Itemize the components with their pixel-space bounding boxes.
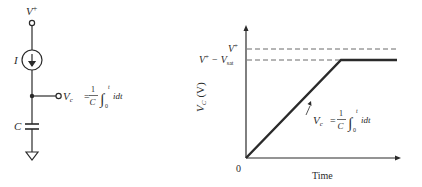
- annotation-equation: Vc = 1 C ∫ t 0 idt: [313, 108, 371, 133]
- supply-terminal: [29, 20, 34, 25]
- vsat-label: V+−Vsat: [199, 53, 234, 66]
- svg-text:Vc: Vc: [313, 114, 324, 128]
- ground-icon: [26, 152, 38, 160]
- y-axis-label: VC(V): [194, 82, 208, 112]
- svg-text:=: =: [330, 115, 336, 126]
- svg-text:idt: idt: [113, 91, 123, 101]
- current-arrow-icon: [29, 62, 35, 67]
- chart: V+ V+−Vsat VC(V) 0 Time Vc = 1 C ∫ t 0 i…: [194, 25, 401, 181]
- svg-text:0: 0: [353, 127, 356, 133]
- svg-text:t: t: [356, 108, 358, 114]
- output-equation: Vc = 1 C ∫ t 0 idt: [63, 84, 123, 109]
- svg-text:Vc: Vc: [63, 90, 74, 104]
- output-terminal: [56, 93, 61, 98]
- origin-label: 0: [236, 163, 241, 174]
- x-axis-arrow-icon: [395, 156, 401, 161]
- svg-text:0: 0: [105, 103, 108, 109]
- vplus-label: V+: [228, 42, 238, 54]
- current-label: I: [13, 54, 19, 66]
- annotation-leader: [306, 106, 310, 115]
- supply-label: V+: [26, 4, 38, 17]
- capacitor-label: C: [14, 120, 22, 132]
- circuit-diagram: [22, 20, 61, 160]
- svg-text:t: t: [108, 84, 110, 90]
- svg-text:1: 1: [339, 109, 343, 118]
- figure: V+ I C Vc = 1 C ∫ t 0 idt V+ V+−Vsat VC(…: [0, 0, 422, 187]
- svg-text:C: C: [338, 121, 345, 131]
- svg-text:C: C: [90, 97, 97, 107]
- y-axis-arrow-icon: [244, 25, 249, 31]
- annotation-arrow-icon: [308, 101, 312, 106]
- svg-text:1: 1: [91, 85, 95, 94]
- x-axis-label: Time: [312, 170, 333, 181]
- vc-series-line: [246, 60, 397, 158]
- svg-text:idt: idt: [361, 115, 371, 125]
